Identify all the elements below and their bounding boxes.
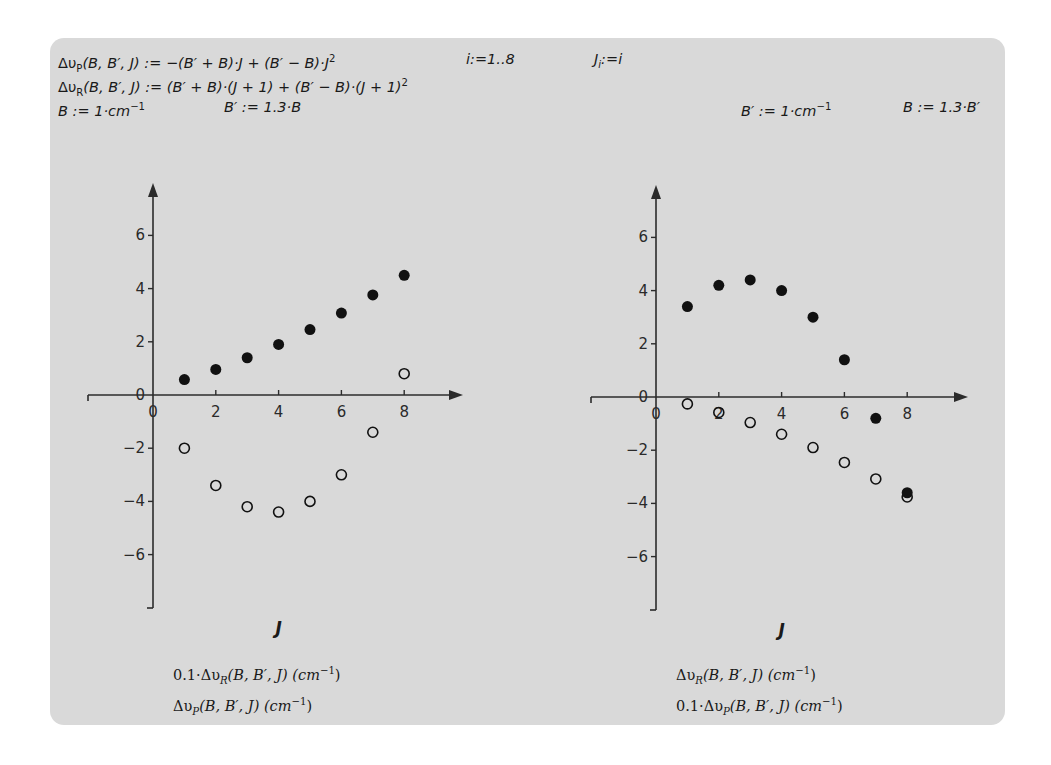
open-data-point <box>179 443 189 453</box>
open-data-point <box>682 399 692 409</box>
x-tick-label: 4 <box>777 405 787 423</box>
x-tick-label: 6 <box>337 403 347 421</box>
y-tick-label: 0 <box>638 388 648 406</box>
y-tick-label: −2 <box>123 439 145 457</box>
y-tick-label: 0 <box>135 386 145 404</box>
filled-data-point <box>305 324 316 335</box>
filled-data-point <box>399 270 410 281</box>
y-axis-arrow-icon <box>148 183 158 197</box>
x-tick-label: 6 <box>840 405 850 423</box>
x-tick-label: 4 <box>274 403 284 421</box>
right-legend-filled-series: ΔυR(B, B′, J) (cm−1) <box>676 660 843 691</box>
legend-close: ) <box>810 667 816 683</box>
plots-canvas: 02468−6−4−20246J 02468−6−4−20246J <box>0 0 1051 765</box>
open-data-point <box>368 427 378 437</box>
legend-sub: P <box>723 705 730 716</box>
filled-data-point <box>210 364 221 375</box>
filled-data-point <box>808 312 819 323</box>
legend-args: (B, B′, J) (cm <box>199 698 291 714</box>
filled-data-point <box>745 274 756 285</box>
open-data-point <box>336 470 346 480</box>
x-axis-title: J <box>775 620 784 640</box>
filled-data-point <box>682 301 693 312</box>
open-data-point <box>399 369 409 379</box>
left-legend-open-series: ΔυP(B, B′, J) (cm−1) <box>173 691 341 722</box>
filled-data-point <box>242 352 253 363</box>
open-data-point <box>745 418 755 428</box>
open-data-point <box>211 480 221 490</box>
x-tick-label: 0 <box>148 403 158 421</box>
open-data-point <box>808 443 818 453</box>
left-legend: 0.1·ΔυR(B, B′, J) (cm−1) ΔυP(B, B′, J) (… <box>173 660 341 721</box>
legend-sup: −1 <box>795 665 810 676</box>
legend-args: (B, B′, J) (cm <box>228 667 320 683</box>
right-legend: ΔυR(B, B′, J) (cm−1) 0.1·ΔυP(B, B′, J) (… <box>676 660 843 721</box>
x-axis-arrow-icon <box>954 392 968 402</box>
legend-close: ) <box>335 667 341 683</box>
legend-close: ) <box>306 698 312 714</box>
y-tick-label: 4 <box>135 280 145 298</box>
legend-sub: R <box>695 675 703 686</box>
filled-data-point <box>367 289 378 300</box>
filled-data-point <box>336 308 347 319</box>
open-data-point <box>242 502 252 512</box>
legend-prefix: Δυ <box>173 698 192 714</box>
open-data-point <box>777 429 787 439</box>
legend-args: (B, B′, J) (cm <box>730 698 822 714</box>
right-scatter-plot: 02468−6−4−20246J <box>591 185 968 640</box>
filled-data-point <box>902 487 913 498</box>
open-data-point <box>839 457 849 467</box>
legend-sup: −1 <box>291 696 306 707</box>
legend-close: ) <box>837 698 843 714</box>
legend-prefix: Δυ <box>676 667 695 683</box>
y-tick-label: 2 <box>638 335 648 353</box>
filled-data-point <box>870 413 881 424</box>
filled-data-point <box>179 374 190 385</box>
legend-sup: −1 <box>822 696 837 707</box>
filled-data-point <box>713 280 724 291</box>
y-tick-label: −4 <box>626 494 648 512</box>
y-tick-label: 4 <box>638 282 648 300</box>
left-scatter-plot: 02468−6−4−20246J <box>88 183 463 638</box>
x-tick-label: 8 <box>399 403 409 421</box>
y-tick-label: 2 <box>135 333 145 351</box>
filled-data-point <box>839 354 850 365</box>
filled-data-point <box>776 285 787 296</box>
x-tick-label: 2 <box>211 403 221 421</box>
open-data-point <box>305 496 315 506</box>
legend-sup: −1 <box>320 665 335 676</box>
legend-prefix: 0.1·Δυ <box>676 698 723 714</box>
legend-prefix: 0.1·Δυ <box>173 667 220 683</box>
y-axis-arrow-icon <box>651 185 661 199</box>
right-legend-open-series: 0.1·ΔυP(B, B′, J) (cm−1) <box>676 691 843 722</box>
left-legend-filled-series: 0.1·ΔυR(B, B′, J) (cm−1) <box>173 660 341 691</box>
y-tick-label: −4 <box>123 492 145 510</box>
x-axis-title: J <box>272 618 281 638</box>
legend-args: (B, B′, J) (cm <box>703 667 795 683</box>
y-tick-label: −6 <box>123 546 145 564</box>
y-tick-label: −6 <box>626 548 648 566</box>
legend-sub: R <box>220 675 228 686</box>
open-data-point <box>871 474 881 484</box>
y-tick-label: −2 <box>626 441 648 459</box>
open-data-point <box>274 507 284 517</box>
filled-data-point <box>273 339 284 350</box>
x-tick-label: 0 <box>651 405 661 423</box>
y-tick-label: 6 <box>638 228 648 246</box>
x-tick-label: 8 <box>902 405 912 423</box>
x-axis-arrow-icon <box>449 390 463 400</box>
y-tick-label: 6 <box>135 226 145 244</box>
